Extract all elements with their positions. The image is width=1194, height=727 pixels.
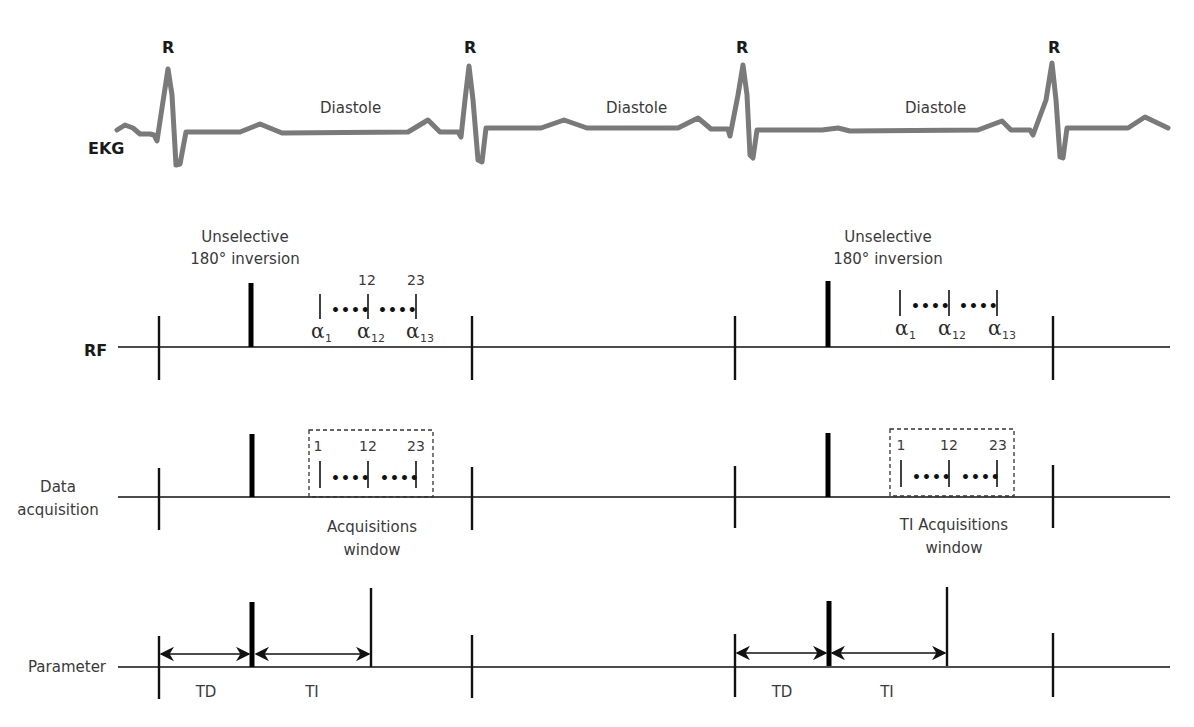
- mri-timing-diagram: EKG R R R R Diastole Diastole Diastole R…: [0, 0, 1194, 727]
- acquisition-window-label: TI Acquisitions: [899, 516, 1009, 534]
- acq-number: 12: [359, 438, 377, 454]
- alpha-subscript: 12: [952, 329, 966, 342]
- data-row-label: Data: [40, 478, 76, 496]
- r-peak-label: R: [736, 38, 748, 57]
- acquisition-window-label: window: [344, 541, 401, 559]
- inversion-label: Unselective: [201, 228, 288, 246]
- acq-number: 23: [989, 437, 1007, 453]
- r-peak-label: R: [162, 38, 174, 57]
- alpha-subscript: 1: [909, 329, 916, 342]
- ellipsis-dots: ••••: [912, 469, 952, 485]
- ellipsis-dots: ••••: [331, 302, 371, 318]
- parameter-row-label: Parameter: [28, 658, 107, 676]
- alpha-subscript: 12: [371, 332, 385, 345]
- rf-row-label: RF: [84, 341, 107, 360]
- pulse-number: 12: [358, 272, 376, 288]
- diastole-label: Diastole: [905, 99, 966, 117]
- r-peak-label: R: [1048, 38, 1060, 57]
- diastole-label: Diastole: [320, 99, 381, 117]
- data-row-label: acquisition: [17, 501, 98, 519]
- acq-number: 1: [314, 438, 323, 454]
- acquisition-window-label: Acquisitions: [327, 518, 417, 536]
- alpha-symbol: α: [988, 316, 1002, 340]
- ti-label: TI: [879, 683, 894, 701]
- alpha-subscript: 1: [325, 332, 332, 345]
- alpha-symbol: α: [357, 319, 371, 343]
- ellipsis-dots: ••••: [911, 298, 951, 314]
- ellipsis-dots: ••••: [959, 298, 999, 314]
- ekg-row-label: EKG: [88, 139, 124, 158]
- ellipsis-dots: ••••: [961, 469, 1001, 485]
- td-label: TD: [195, 683, 217, 701]
- ellipsis-dots: ••••: [331, 470, 371, 486]
- acq-number: 1: [897, 437, 906, 453]
- r-peak-label: R: [464, 38, 476, 57]
- ti-label: TI: [304, 683, 319, 701]
- diastole-label: Diastole: [606, 99, 667, 117]
- alpha-symbol: α: [406, 319, 420, 343]
- acq-number: 12: [940, 437, 958, 453]
- alpha-symbol: α: [938, 316, 952, 340]
- alpha-subscript: 13: [1002, 329, 1016, 342]
- inversion-label: 180° inversion: [833, 250, 943, 268]
- pulse-number: 23: [407, 272, 425, 288]
- alpha-symbol: α: [311, 319, 325, 343]
- ellipsis-dots: ••••: [380, 470, 420, 486]
- inversion-label: 180° inversion: [190, 250, 300, 268]
- acquisition-window-label: window: [926, 539, 983, 557]
- alpha-symbol: α: [895, 316, 909, 340]
- td-label: TD: [771, 683, 793, 701]
- inversion-label: Unselective: [844, 228, 931, 246]
- acq-number: 23: [407, 438, 425, 454]
- ellipsis-dots: ••••: [378, 302, 418, 318]
- alpha-subscript: 13: [420, 332, 434, 345]
